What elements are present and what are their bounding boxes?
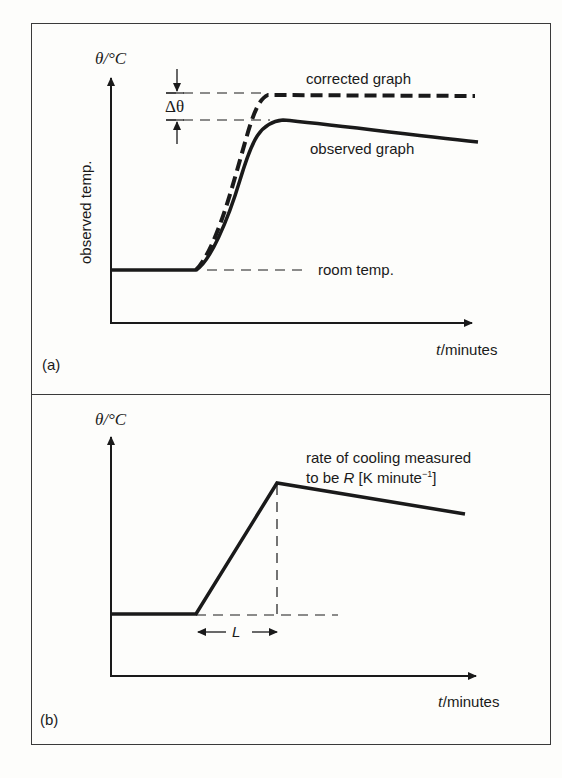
x-axis-label-b: t/minutes: [438, 693, 499, 710]
y-axis-label-b: θ/°C: [95, 411, 126, 428]
panel-b-tag: (b): [40, 712, 58, 727]
panel-b-plot: [0, 0, 562, 778]
heating-curve: [112, 483, 465, 614]
cooling-rate-line2: to be R [K minute−1]: [306, 470, 436, 485]
L-label: L: [232, 624, 240, 639]
cooling-rate-line1: rate of cooling measured: [306, 450, 471, 465]
